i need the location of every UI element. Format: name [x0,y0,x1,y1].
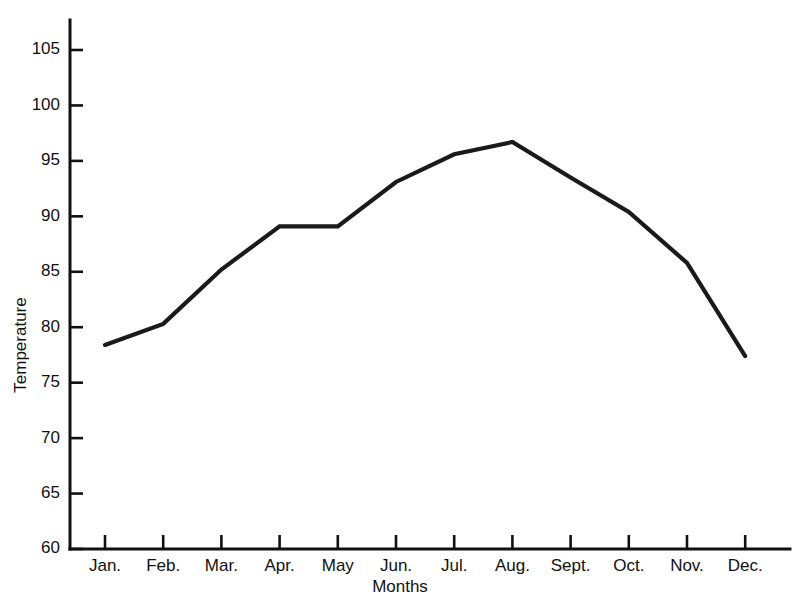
x-tick-label: Feb. [146,556,180,575]
plot-background [0,0,796,607]
y-tick-label: 100 [32,95,60,114]
y-tick-label: 80 [41,317,60,336]
y-tick-label: 85 [41,261,60,280]
x-tick-label: Oct. [613,556,644,575]
line-chart: 6065707580859095100105 Temperature Jan.F… [0,0,796,607]
y-axis-title: Temperature [11,297,30,392]
y-tick-label: 95 [41,150,60,169]
y-tick-label: 90 [41,206,60,225]
y-tick-label: 60 [41,538,60,557]
x-tick-label: Sept. [551,556,591,575]
x-tick-label: May [322,556,355,575]
x-tick-label: Dec. [728,556,763,575]
x-tick-label: Apr. [264,556,294,575]
x-tick-label: Nov. [670,556,704,575]
x-tick-label: Aug. [495,556,530,575]
x-tick-label: Jul. [441,556,467,575]
y-tick-label: 105 [32,39,60,58]
y-tick-label: 65 [41,483,60,502]
y-tick-label: 70 [41,428,60,447]
x-tick-label: Jun. [380,556,412,575]
x-tick-label: Jan. [89,556,121,575]
x-tick-label: Mar. [205,556,238,575]
y-tick-label: 75 [41,372,60,391]
x-axis-title: Months [372,577,428,596]
chart-page: 6065707580859095100105 Temperature Jan.F… [0,0,796,607]
